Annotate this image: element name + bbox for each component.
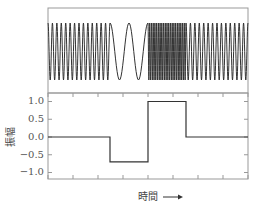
amplitude-step-line xyxy=(48,102,248,162)
y-tick-label: −0.5 xyxy=(20,149,44,160)
y-axis-label: 振幅 xyxy=(4,127,16,147)
fm-waveform-line xyxy=(48,23,248,80)
figure: 1.0 0.5 0.0 −0.5 −1.0 振幅 時間 xyxy=(0,0,254,209)
y-tick-label: 0.5 xyxy=(28,113,44,124)
y-tick-label: −1.0 xyxy=(20,166,44,177)
fm-signal-panel xyxy=(48,8,248,93)
x-axis-label: 時間 xyxy=(138,191,158,202)
y-tick-label: 1.0 xyxy=(28,95,44,106)
y-tick-label: 0.0 xyxy=(28,131,44,142)
amplitude-panel: 1.0 0.5 0.0 −0.5 −1.0 振幅 時間 xyxy=(4,93,248,202)
time-arrow-icon xyxy=(163,195,183,200)
